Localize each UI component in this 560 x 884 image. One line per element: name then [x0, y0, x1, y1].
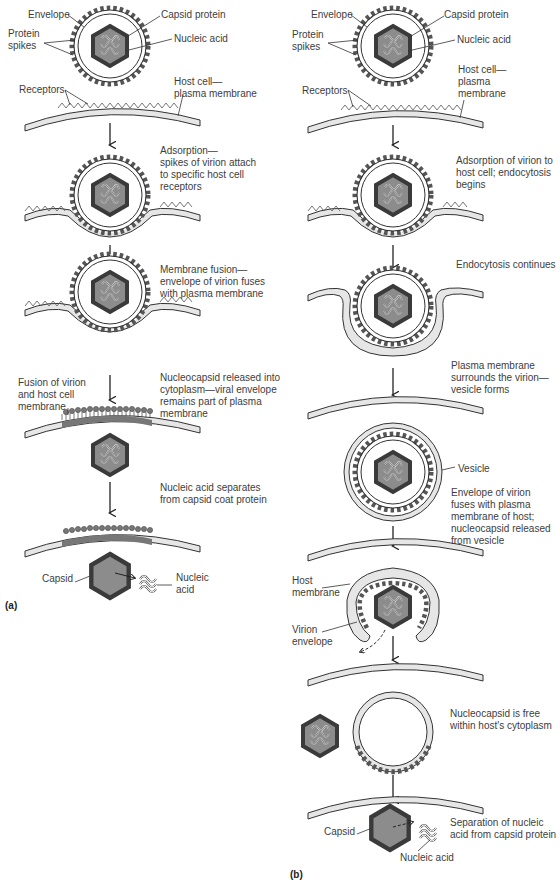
label-virion-envelope-b: Virion envelope — [292, 624, 333, 648]
label-nucleic-acid-b: Nucleic acid — [457, 34, 511, 46]
label-capsid-protein-b: Capsid protein — [444, 9, 508, 21]
step-b-5: Nucleocapsid is free within host's cytop… — [450, 708, 552, 732]
step-b-1: Adsorption of virion to host cell; endoc… — [456, 155, 553, 191]
label-host-membrane-a: Host cell— plasma membrane — [174, 76, 257, 100]
step-b-2: Endocytosis continues — [456, 259, 556, 271]
label-nucleic-acid-a-2: Nucleic acid — [176, 572, 209, 596]
step-a-4: Nucleic acid separates from capsid coat … — [160, 482, 267, 506]
label-envelope-b: Envelope — [311, 9, 353, 21]
diagram-canvas — [0, 0, 560, 884]
label-protein-spikes-a: Protein spikes — [8, 28, 40, 52]
label-nucleic-acid-a: Nucleic acid — [174, 33, 228, 45]
panel-tag-a: (a) — [5, 600, 17, 611]
step-b-4: Envelope of virion fuses with plasma mem… — [451, 487, 551, 547]
label-envelope-a: Envelope — [28, 9, 70, 21]
label-nucleic-acid-b-2: Nucleic acid — [400, 852, 454, 864]
step-b-6: Separation of nucleic acid from capsid p… — [450, 817, 556, 841]
panel-tag-b: (b) — [290, 869, 303, 880]
step-a-3: Nucleocapsid released into cytoplasm—vir… — [160, 372, 280, 420]
step-a-2: Membrane fusion— envelope of virion fuse… — [160, 264, 265, 300]
step-a-1: Adsorption— spikes of virion attach to s… — [160, 145, 256, 193]
label-host-membrane-b-2: Host membrane — [292, 575, 340, 599]
label-capsid-protein-a: Capsid protein — [161, 9, 225, 21]
step-b-3: Plasma membrane surrounds the virion— ve… — [451, 360, 549, 396]
label-receptors-a: Receptors — [19, 84, 65, 96]
label-fusion-a: Fusion of virion and host cell membrane — [18, 377, 86, 413]
label-vesicle-b: Vesicle — [458, 463, 490, 475]
label-capsid-b: Capsid — [324, 826, 355, 838]
label-protein-spikes-b: Protein spikes — [292, 29, 324, 53]
label-receptors-b: Receptors — [302, 85, 348, 97]
label-capsid-a: Capsid — [42, 573, 73, 585]
label-host-membrane-b: Host cell— plasma membrane — [458, 64, 506, 100]
